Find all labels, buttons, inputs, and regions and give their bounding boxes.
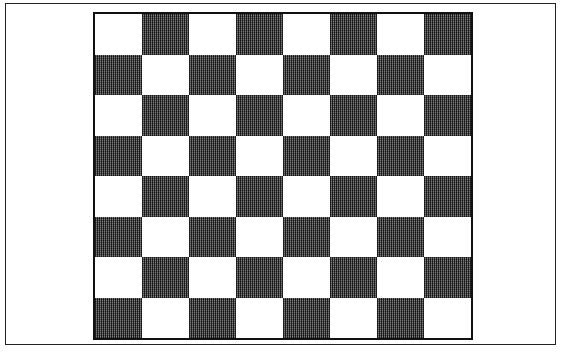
board-square-r7-c7[interactable] — [377, 257, 424, 298]
board-square-r8-c8[interactable] — [424, 298, 471, 339]
board-square-r8-c1[interactable] — [95, 298, 142, 339]
board-square-r5-c7[interactable] — [377, 176, 424, 217]
board-square-r4-c8[interactable] — [424, 136, 471, 177]
board-square-r1-c2[interactable] — [142, 14, 189, 55]
board-square-r1-c7[interactable] — [377, 14, 424, 55]
board-square-r4-c3[interactable] — [189, 136, 236, 177]
board-square-r6-c1[interactable] — [95, 217, 142, 258]
board-square-r2-c7[interactable] — [377, 55, 424, 96]
board-square-r5-c1[interactable] — [95, 176, 142, 217]
board-square-r2-c3[interactable] — [189, 55, 236, 96]
board-square-r6-c4[interactable] — [236, 217, 283, 258]
board-square-r8-c3[interactable] — [189, 298, 236, 339]
board-square-r5-c5[interactable] — [283, 176, 330, 217]
board-square-r1-c5[interactable] — [283, 14, 330, 55]
board-square-r8-c2[interactable] — [142, 298, 189, 339]
board-square-r4-c4[interactable] — [236, 136, 283, 177]
board-square-r3-c4[interactable] — [236, 95, 283, 136]
board-square-r3-c6[interactable] — [330, 95, 377, 136]
board-square-r6-c5[interactable] — [283, 217, 330, 258]
board-square-r8-c5[interactable] — [283, 298, 330, 339]
board-square-r4-c2[interactable] — [142, 136, 189, 177]
board-square-r7-c5[interactable] — [283, 257, 330, 298]
checkerboard[interactable] — [93, 12, 473, 340]
board-square-r1-c1[interactable] — [95, 14, 142, 55]
board-square-r1-c8[interactable] — [424, 14, 471, 55]
board-square-r1-c3[interactable] — [189, 14, 236, 55]
board-square-r3-c2[interactable] — [142, 95, 189, 136]
board-square-r6-c6[interactable] — [330, 217, 377, 258]
board-square-r3-c5[interactable] — [283, 95, 330, 136]
board-square-r4-c7[interactable] — [377, 136, 424, 177]
board-square-r6-c8[interactable] — [424, 217, 471, 258]
board-square-r3-c8[interactable] — [424, 95, 471, 136]
board-square-r5-c2[interactable] — [142, 176, 189, 217]
board-square-r7-c4[interactable] — [236, 257, 283, 298]
board-square-r5-c8[interactable] — [424, 176, 471, 217]
board-square-r2-c4[interactable] — [236, 55, 283, 96]
board-square-r3-c1[interactable] — [95, 95, 142, 136]
board-square-r7-c2[interactable] — [142, 257, 189, 298]
board-square-r7-c6[interactable] — [330, 257, 377, 298]
board-square-r6-c2[interactable] — [142, 217, 189, 258]
board-square-r4-c5[interactable] — [283, 136, 330, 177]
board-square-r8-c4[interactable] — [236, 298, 283, 339]
board-square-r7-c8[interactable] — [424, 257, 471, 298]
board-square-r7-c3[interactable] — [189, 257, 236, 298]
board-square-r4-c1[interactable] — [95, 136, 142, 177]
board-square-r5-c4[interactable] — [236, 176, 283, 217]
board-square-r2-c6[interactable] — [330, 55, 377, 96]
board-square-r6-c7[interactable] — [377, 217, 424, 258]
board-square-r2-c5[interactable] — [283, 55, 330, 96]
board-square-r2-c1[interactable] — [95, 55, 142, 96]
board-square-r7-c1[interactable] — [95, 257, 142, 298]
board-square-r8-c7[interactable] — [377, 298, 424, 339]
board-square-r5-c3[interactable] — [189, 176, 236, 217]
board-square-r8-c6[interactable] — [330, 298, 377, 339]
board-square-r3-c3[interactable] — [189, 95, 236, 136]
board-square-r4-c6[interactable] — [330, 136, 377, 177]
board-square-r6-c3[interactable] — [189, 217, 236, 258]
board-square-r5-c6[interactable] — [330, 176, 377, 217]
board-square-r1-c6[interactable] — [330, 14, 377, 55]
board-square-r3-c7[interactable] — [377, 95, 424, 136]
board-square-r1-c4[interactable] — [236, 14, 283, 55]
board-square-r2-c2[interactable] — [142, 55, 189, 96]
board-square-r2-c8[interactable] — [424, 55, 471, 96]
